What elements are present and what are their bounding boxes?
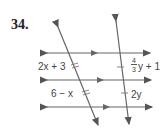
transversal-right <box>116 21 129 124</box>
transversal-left <box>58 27 98 125</box>
fraction-bar <box>131 64 137 65</box>
label-2y: 2y <box>131 89 142 100</box>
fraction-denominator: 3 <box>131 66 137 73</box>
label-2x-plus-3: 2x + 3 <box>38 61 66 72</box>
label-y-plus-1: y + 1 <box>138 61 160 72</box>
label-6-minus-x: 6 − x <box>51 88 73 99</box>
fraction-numerator: 4 <box>131 57 137 64</box>
